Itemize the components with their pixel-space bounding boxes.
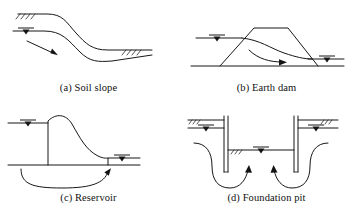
seepage-flow-arrow (27, 41, 58, 55)
panel-a-caption: (a) Soil slope (0, 82, 177, 93)
ground-hatching-lower-right (122, 50, 141, 55)
under-seepage-arc (21, 168, 111, 188)
panel-reservoir: (c) Reservoir (0, 110, 177, 219)
reservoir-diagram (0, 110, 177, 198)
panel-soil-slope: (a) Soil slope (0, 0, 177, 109)
ground-hatching-upper-left (16, 14, 35, 19)
ground-hatching-right (321, 120, 332, 124)
earth-dam-diagram (178, 0, 355, 88)
panel-b-caption: (b) Earth dam (178, 82, 355, 93)
panel-c-caption: (c) Reservoir (0, 192, 177, 203)
sheet-pile-wall-left (224, 116, 228, 172)
panel-d-caption: (d) Foundation pit (178, 192, 355, 203)
sheet-pile-wall-right (294, 116, 298, 172)
panel-foundation-pit: (d) Foundation pit (178, 110, 355, 219)
panel-earth-dam: (b) Earth dam (178, 0, 355, 109)
seepage-figure: (a) Soil slope (0, 0, 355, 219)
ground-surface-curve (18, 14, 152, 50)
foundation-pit-diagram (178, 110, 355, 198)
gravity-dam-profile (48, 116, 108, 165)
ground-hatching-pit (231, 150, 242, 154)
phreatic-line-curve (13, 31, 152, 61)
phreatic-seepage-line (242, 38, 312, 59)
ground-hatching-left (189, 120, 200, 124)
soil-slope-diagram (0, 0, 177, 88)
